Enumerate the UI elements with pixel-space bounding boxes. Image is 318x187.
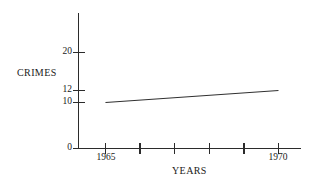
y-tick-label-10: 10 (54, 97, 72, 107)
y-axis-title: CRIMES (17, 68, 57, 78)
y-tick-label-12: 12 (54, 85, 72, 95)
y-tick-label-20: 20 (54, 47, 72, 57)
x-tick-label-1970: 1970 (262, 153, 294, 163)
line-chart: CRIMES YEARS 0 10 12 20 1965 1970 (0, 0, 318, 187)
x-axis-title: YEARS (172, 166, 207, 176)
y-tick-label-0: 0 (58, 143, 72, 153)
data-series-line (106, 91, 279, 103)
x-tick-label-1965: 1965 (90, 153, 122, 163)
